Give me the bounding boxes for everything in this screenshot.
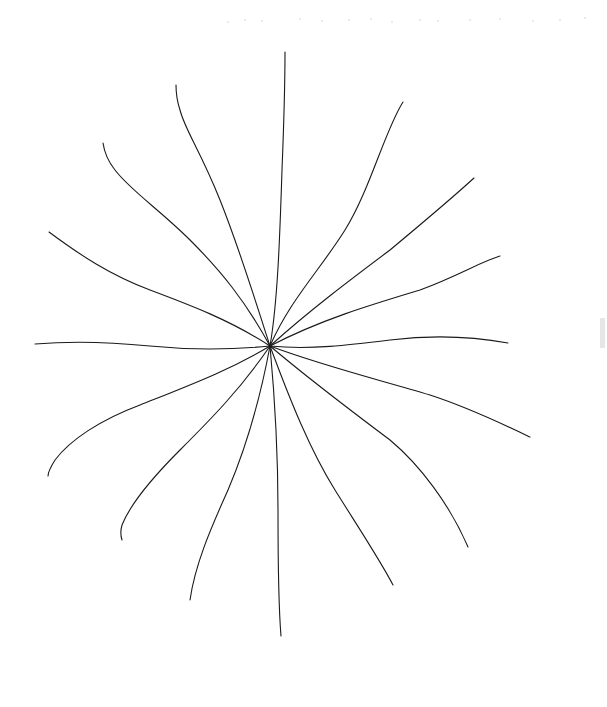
ray-east-southeast — [270, 346, 530, 437]
starburst-drawing — [0, 0, 607, 707]
scanner-speck — [499, 18, 501, 20]
scan-edge-artifact — [600, 318, 605, 348]
starburst-rays — [35, 52, 530, 636]
ray-northeast — [270, 178, 474, 346]
ray-northwest — [103, 143, 270, 346]
scanner-speck — [391, 21, 393, 23]
ray-west-southwest — [48, 346, 270, 476]
ray-south-southeast — [270, 346, 393, 585]
scanner-speck — [419, 19, 421, 21]
ray-north — [270, 52, 285, 346]
scanner-speck — [370, 18, 372, 20]
ray-southwest — [121, 346, 270, 540]
ray-east-northeast — [270, 256, 500, 346]
ray-east — [270, 337, 508, 348]
scanner-speck — [227, 21, 229, 23]
scanner-speck — [321, 20, 323, 22]
scanner-speck — [532, 20, 534, 22]
scanner-speck — [244, 19, 246, 21]
scanner-speck — [299, 18, 301, 20]
scanner-speck — [559, 19, 561, 21]
scanner-speck — [261, 20, 263, 22]
ray-north-northeast — [270, 102, 403, 346]
scanner-speck — [437, 20, 439, 22]
ray-south-southwest — [190, 346, 270, 600]
ray-north-northwest — [176, 85, 270, 346]
scanner-speck — [584, 17, 586, 19]
scanner-specks — [227, 17, 586, 23]
ray-west — [35, 342, 270, 349]
ray-southeast — [270, 346, 468, 547]
ray-south — [270, 346, 281, 636]
ray-west-northwest — [49, 232, 270, 346]
scanner-speck — [348, 19, 350, 21]
scanner-speck — [469, 19, 471, 21]
